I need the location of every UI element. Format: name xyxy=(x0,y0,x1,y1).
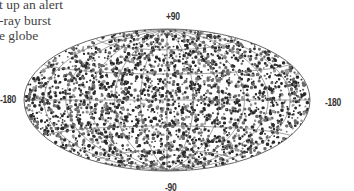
label-left: -180 xyxy=(0,94,16,105)
label-top: +90 xyxy=(166,11,180,22)
label-right: -180 xyxy=(325,97,341,108)
label-bottom: -90 xyxy=(165,182,177,191)
grid-lines xyxy=(24,29,310,171)
all-sky-map xyxy=(0,0,354,191)
